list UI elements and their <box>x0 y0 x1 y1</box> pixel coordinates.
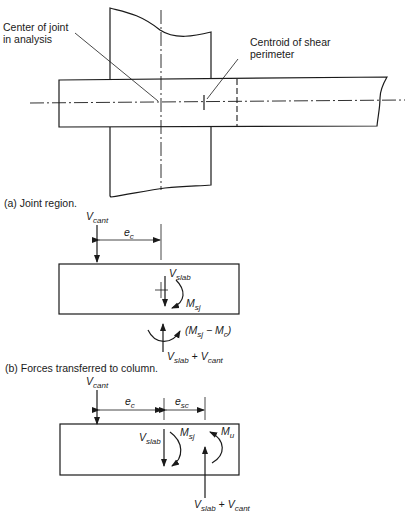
joint-region-figure: Center of joint in analysis Centroid of … <box>3 8 405 209</box>
slab-free-body-c <box>60 424 239 475</box>
label-center-joint-1: Center of joint <box>3 21 68 33</box>
column-upper <box>110 8 211 79</box>
e-c-label: ec <box>124 226 134 241</box>
caption-b: (b) Forces transferred to column. <box>5 362 158 374</box>
joint-diagram: Center of joint in analysis Centroid of … <box>0 0 410 516</box>
v-slab-label: Vslab <box>169 267 191 282</box>
m-sj-label: Msj <box>186 297 201 312</box>
e-c-label-c: ec <box>125 395 135 410</box>
caption-a: (a) Joint region. <box>4 197 77 209</box>
moment-transfer-figure: Vcant ec esc Vslab Msj Mu Vslab + Vcant <box>60 375 251 513</box>
m-sj-moment-arrow <box>172 280 183 308</box>
horizontal-centerline <box>30 100 405 103</box>
moment-diff-label: (Msj − Mc) <box>185 324 231 339</box>
v-cant-label: Vcant <box>86 210 109 225</box>
slab-free-body-b <box>59 264 239 314</box>
label-center-joint-2: in analysis <box>3 33 52 45</box>
reaction-label-c: Vslab + Vcant <box>194 498 251 513</box>
m-sj-label-c: Msj <box>180 426 195 441</box>
moment-diff-arrow <box>148 330 180 341</box>
v-cant-label-c: Vcant <box>86 375 109 390</box>
column-lower <box>110 127 211 197</box>
reaction-label-b: Vslab + Vcant <box>167 350 224 365</box>
e-sc-label: esc <box>175 395 189 410</box>
v-slab-label-c: Vslab <box>139 431 161 446</box>
forces-transferred-figure: Vcant ec Vslab Msj (Msj − Mc) Vslab + Vc… <box>5 210 239 374</box>
label-centroid-2: perimeter <box>250 48 295 60</box>
label-centroid-1: Centroid of shear <box>250 36 331 48</box>
m-u-label: Mu <box>221 425 235 440</box>
leader-center-joint <box>75 33 158 101</box>
